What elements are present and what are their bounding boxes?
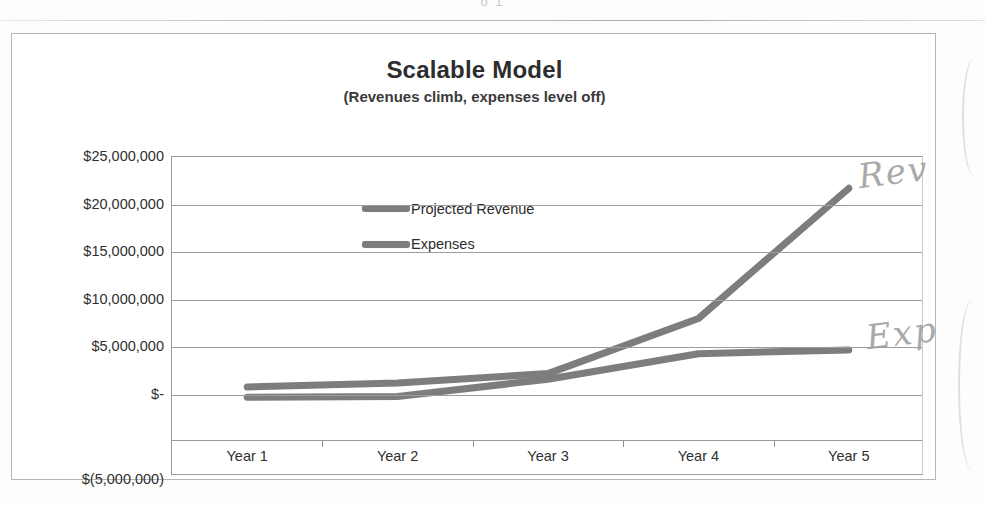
gridline <box>172 205 922 206</box>
y-axis-tick-label: $15,000,000 <box>24 243 164 259</box>
margin-scan-mark-bottom <box>958 300 985 470</box>
gridline <box>172 395 922 396</box>
x-axis-tick-label: Year 3 <box>527 448 568 464</box>
series-line-projected-revenue <box>247 188 849 387</box>
y-axis-label-negative: $(5,000,000) <box>18 471 164 487</box>
y-axis-tick-label: $5,000,000 <box>24 338 164 354</box>
gridline <box>172 300 922 301</box>
gridline <box>172 252 922 253</box>
y-axis-tick-label: $10,000,000 <box>24 291 164 307</box>
y-axis-labels: $25,000,000$20,000,000$15,000,000$10,000… <box>18 156 164 441</box>
scanned-page: o 1 Scalable Model (Revenues climb, expe… <box>0 0 985 506</box>
chart-subtitle: (Revenues climb, expenses level off) <box>12 88 937 105</box>
chart-title: Scalable Model <box>12 56 937 84</box>
y-axis-tick-label: $- <box>24 386 164 402</box>
page-top-rule <box>0 20 985 21</box>
x-axis-tick-label: Year 4 <box>678 448 719 464</box>
x-axis-tick-label: Year 2 <box>377 448 418 464</box>
page-top-partial-text: o 1 <box>0 0 985 12</box>
chart-container: Scalable Model (Revenues climb, expenses… <box>11 33 936 480</box>
x-axis-band: Year 1Year 2Year 3Year 4Year 5 <box>171 441 923 475</box>
rev-handwritten-note: Rev <box>856 148 931 196</box>
gridline <box>172 347 922 348</box>
y-axis-tick-label: $25,000,000 <box>24 148 164 164</box>
y-axis-tick-label: $20,000,000 <box>24 196 164 212</box>
x-axis-tick-label: Year 1 <box>226 448 267 464</box>
margin-scan-mark-top <box>962 58 985 176</box>
x-axis-tick-label: Year 5 <box>828 448 869 464</box>
plot-area: Projected RevenueExpenses <box>171 156 923 441</box>
